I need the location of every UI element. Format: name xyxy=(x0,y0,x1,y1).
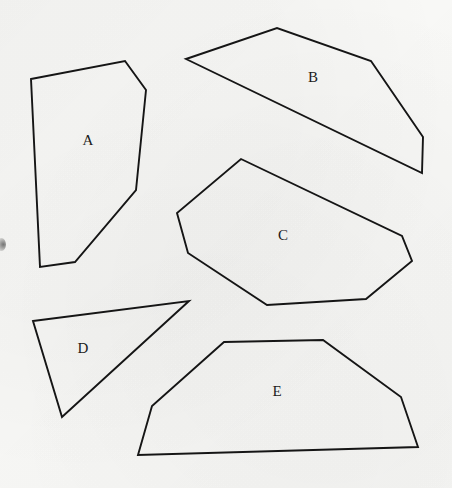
polygon-label-a: A xyxy=(83,133,94,148)
polygon-label-c: C xyxy=(278,228,288,243)
polygon-label-e: E xyxy=(272,384,281,399)
figure-canvas: A B C D E xyxy=(0,0,452,488)
polygon-label-d: D xyxy=(78,341,89,356)
polygon-a[interactable] xyxy=(31,61,146,267)
polygon-b[interactable] xyxy=(186,28,423,173)
polygon-label-b: B xyxy=(308,70,318,85)
polygon-d[interactable] xyxy=(33,301,189,417)
polygon-figure xyxy=(0,0,452,488)
polygon-c[interactable] xyxy=(177,159,412,305)
